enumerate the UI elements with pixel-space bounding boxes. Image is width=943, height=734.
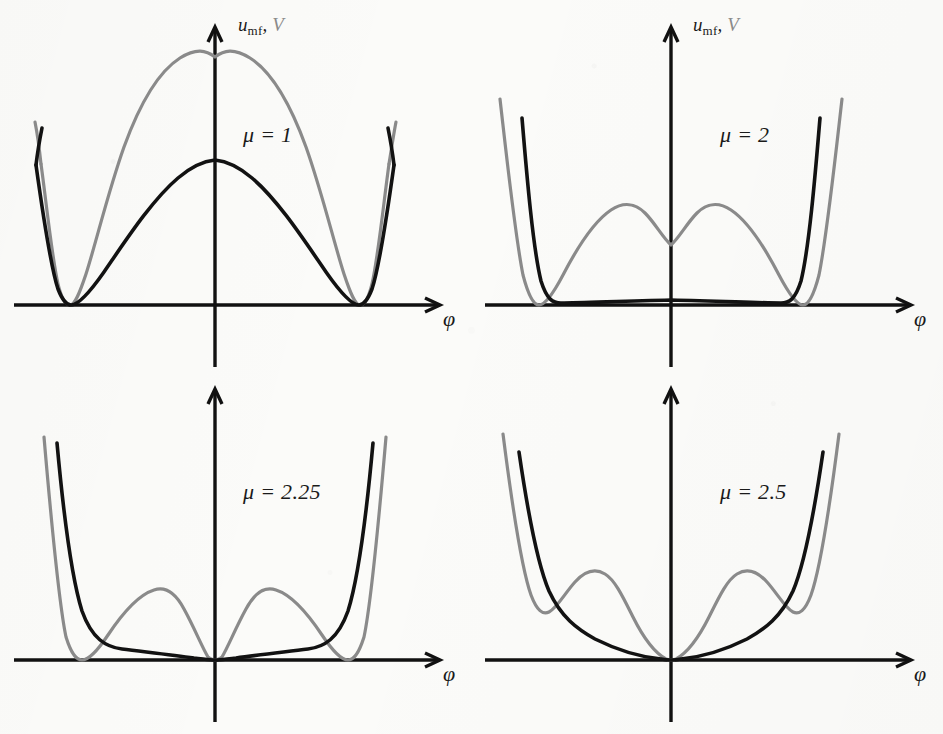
panel-4-plot [471,367,942,734]
x-axis-label: φ [443,661,455,687]
y-axis-label: umf, V [238,14,284,39]
panel-mu-1: umf, V φ μ = 1 [0,0,471,367]
mu-annotation: μ = 2.25 [243,479,321,505]
panel-1-axes [14,27,440,367]
y-axis-main-symbol: u [238,14,248,35]
y-axis-subscript: mf [703,23,718,38]
panel-2-axes [485,27,911,367]
y-axis-comma: , [262,14,267,35]
panel-mu-2-5: uMF, V φ μ = 2.5 [471,367,942,734]
panel-mu-2: umf, V φ μ = 2 [471,0,942,367]
y-axis-comma: , [717,14,722,35]
mu-annotation: μ = 2.5 [720,479,787,505]
x-axis-label: φ [443,306,455,332]
panel-3-plot [0,367,471,734]
panel-4-axes [485,389,911,722]
y-axis-subscript: mf [248,23,263,38]
y-axis-potential-symbol: V [272,14,284,35]
panel-2-plot [471,0,942,367]
panel-mu-2-25: uMF, V φ μ = 2.25 [0,367,471,734]
x-axis-label: φ [914,306,926,332]
y-axis-potential-symbol: V [727,14,739,35]
y-axis-main-symbol: u [693,14,703,35]
x-axis-label: φ [914,661,926,687]
y-axis-label: umf, V [693,14,739,39]
mu-annotation: μ = 2 [720,122,769,148]
four-panel-potential-figure: umf, V φ μ = 1 umf, V φ μ = 2 [0,0,943,734]
panel-1-plot [0,0,471,367]
mu-annotation: μ = 1 [243,122,292,148]
